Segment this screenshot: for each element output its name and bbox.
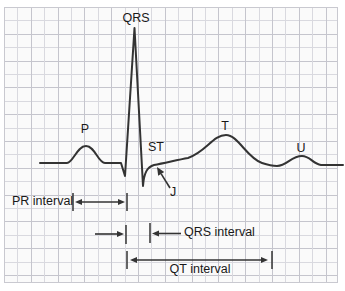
- ecg-trace: [40, 28, 343, 186]
- qt-interval-label: QT interval: [170, 263, 231, 276]
- p-wave-label: P: [81, 123, 89, 136]
- pr-interval-arrow: [75, 199, 125, 205]
- pr-interval-label: PR interval: [12, 195, 73, 208]
- j-point-label: J: [170, 186, 176, 199]
- u-wave-label: U: [296, 142, 305, 155]
- t-wave-label: T: [221, 120, 229, 133]
- ecg-overlay-svg: [0, 0, 345, 291]
- ecg-figure: QRS P ST J T U PR interval QRS interval …: [0, 0, 345, 291]
- j-point-arrow: [157, 167, 170, 188]
- qrs-onset-arrow: [95, 231, 124, 237]
- st-segment-label: ST: [148, 141, 164, 154]
- qrs-offset-arrow: [152, 231, 181, 237]
- qrs-interval-label: QRS interval: [184, 226, 255, 239]
- qrs-wave-label: QRS: [122, 12, 149, 25]
